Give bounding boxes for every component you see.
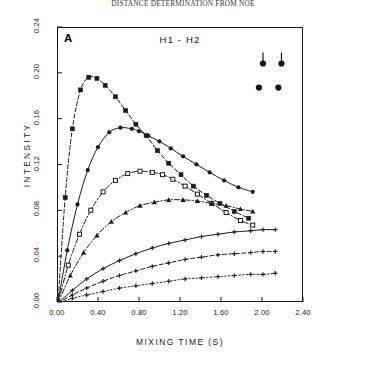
x-tick-label: 0.00	[42, 308, 72, 317]
y-tick-label: 0.16	[32, 104, 41, 130]
figure-root: DISTANCE DETERMINATION FROM NOE INTENSIT…	[0, 0, 366, 368]
axis-ticks-layer	[57, 27, 303, 302]
y-tick-label: 0.00	[32, 288, 41, 314]
x-tick-label: 0.80	[124, 308, 154, 317]
x-tick-label: 1.60	[206, 308, 236, 317]
y-tick-label: 0.24	[32, 13, 41, 39]
y-tick-label: 0.08	[32, 196, 41, 222]
x-tick-label: 2.40	[288, 308, 318, 317]
x-tick-label: 0.40	[83, 308, 113, 317]
x-tick-label: 1.20	[165, 308, 195, 317]
y-tick-label: 0.20	[32, 58, 41, 84]
x-axis-title: MIXING TIME (S)	[57, 337, 303, 347]
y-tick-label: 0.12	[32, 150, 41, 176]
y-axis-title: INTENSITY	[22, 100, 32, 210]
running-head: DISTANCE DETERMINATION FROM NOE	[0, 0, 366, 8]
x-tick-label: 2.00	[247, 308, 277, 317]
y-tick-label: 0.04	[32, 242, 41, 268]
